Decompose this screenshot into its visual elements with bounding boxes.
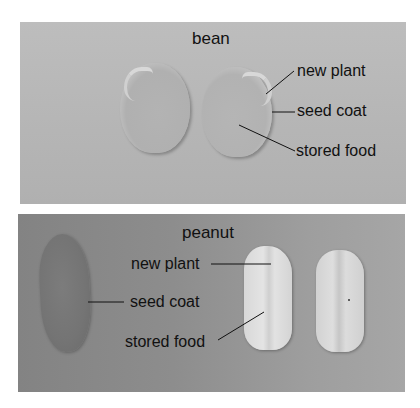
bean-label-stored-food: stored food [296, 143, 376, 159]
peanut-label-new-plant: new plant [131, 256, 200, 272]
peanut-label-seed-coat: seed coat [130, 294, 199, 310]
peanut-title: peanut [182, 225, 234, 241]
peanut-label-stored-food: stored food [125, 334, 205, 350]
bean-label-seed-coat: seed coat [297, 103, 366, 119]
peanut-photo-panel: peanut new plant seed coat stored food [18, 214, 405, 392]
bean-label-new-plant: new plant [297, 63, 366, 79]
bean-photo-panel: bean new plant seed coat stored food [20, 22, 406, 204]
bean-title: bean [192, 31, 230, 47]
